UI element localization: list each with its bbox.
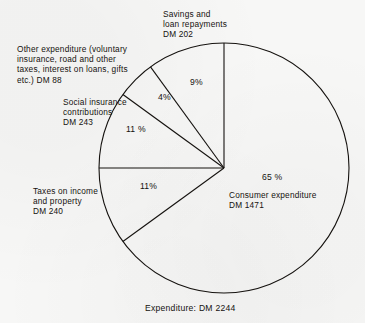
slice-percent-taxes-on-income-and-property: 11% xyxy=(140,181,157,191)
slice-percent-savings-and-loan-repayments: 9% xyxy=(190,77,203,87)
chart-caption-total-expenditure: Expenditure: DM 2244 xyxy=(145,303,236,313)
slice-divider-234deg xyxy=(123,168,224,242)
slice-label-other-expenditure: Other expenditure (voluntary insurance, … xyxy=(17,44,163,85)
slice-percent-consumer-expenditure: 65 % xyxy=(262,172,282,182)
slice-label-savings-and-loan-repayments: Savings and loan repayments DM 202 xyxy=(163,9,255,40)
slice-label-taxes-on-income-and-property: Taxes on income and property DM 240 xyxy=(33,186,133,217)
pie-chart-figure: Savings and loan repayments DM 202 Other… xyxy=(0,0,365,323)
slice-percent-social-insurance-contributions: 11 % xyxy=(126,124,146,134)
slice-label-social-insurance-contributions: Social insurance contributions DM 243 xyxy=(63,97,163,128)
slice-label-consumer-expenditure: Consumer expenditure DM 1471 xyxy=(229,190,344,210)
slice-percent-other-expenditure: 4% xyxy=(158,92,171,102)
